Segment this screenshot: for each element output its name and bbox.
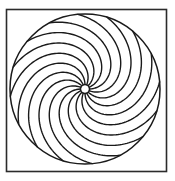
center-hub-circle <box>81 85 90 94</box>
square-frame-border <box>7 10 167 172</box>
artboard <box>0 0 175 181</box>
outer-circle-boundary <box>10 14 160 164</box>
spiral-rosette-figure <box>0 0 175 181</box>
spiral-arm-group <box>10 14 159 163</box>
